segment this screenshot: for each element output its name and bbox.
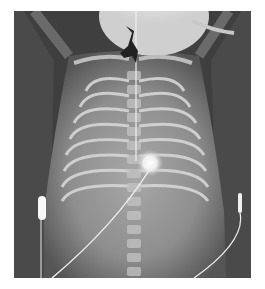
ecg-lead-left-icon xyxy=(38,196,46,220)
ecg-lead-right-icon xyxy=(238,193,242,213)
xray-image xyxy=(14,11,251,278)
xray-svg xyxy=(14,11,251,278)
ecg-electrode-center-icon xyxy=(136,149,164,177)
